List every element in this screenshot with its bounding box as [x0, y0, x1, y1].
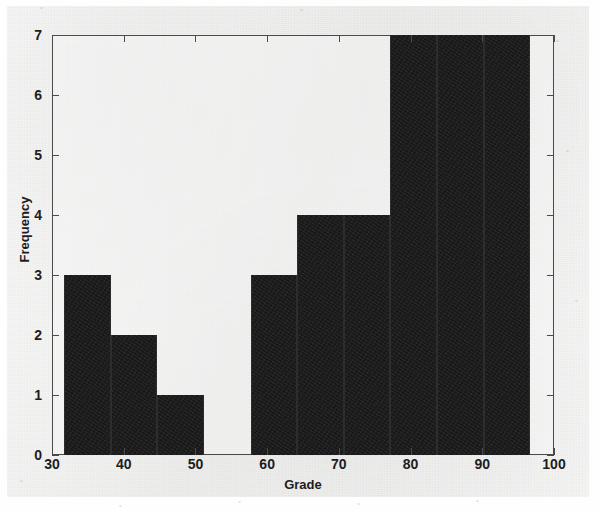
x-axis-tick-label: 70	[316, 457, 362, 472]
histogram-bar	[437, 35, 484, 455]
scan-speckle	[575, 300, 578, 302]
y-axis-tick-label: 7	[8, 28, 42, 42]
x-axis-tick	[482, 448, 483, 455]
histogram-bar	[251, 275, 298, 455]
y-axis-tick-right	[547, 395, 554, 396]
x-axis-tick-top	[52, 35, 53, 42]
x-axis-tick-top	[124, 35, 125, 42]
x-axis-tick	[554, 448, 555, 455]
histogram-bar	[297, 215, 344, 455]
y-axis-tick-label: 2	[8, 328, 42, 342]
scan-speckle	[476, 500, 479, 502]
histogram-chart: 01234567 30405060708090100 Grade Frequen…	[0, 0, 601, 514]
x-axis-title: Grade	[52, 477, 554, 492]
x-axis-tick-top	[267, 35, 268, 42]
y-axis-tick	[52, 275, 59, 276]
x-axis-tick-label: 40	[101, 457, 147, 472]
y-axis-tick	[52, 215, 59, 216]
x-axis-tick-label: 100	[531, 457, 577, 472]
y-axis-tick-right	[547, 95, 554, 96]
y-axis-tick	[52, 335, 59, 336]
x-axis-tick-label: 80	[388, 457, 434, 472]
y-axis-tick	[52, 95, 59, 96]
histogram-bar	[64, 275, 111, 455]
x-axis-tick	[411, 448, 412, 455]
scan-speckle	[556, 40, 559, 42]
x-axis-tick	[195, 448, 196, 455]
y-axis-tick-right	[547, 335, 554, 336]
y-axis-tick-label: 6	[8, 88, 42, 102]
x-axis-tick	[267, 448, 268, 455]
y-axis-tick-right	[547, 155, 554, 156]
scan-speckle	[119, 505, 122, 507]
y-axis-tick	[52, 35, 59, 36]
scan-speckle	[20, 480, 23, 482]
x-axis-tick	[52, 448, 53, 455]
x-axis-tick-top	[554, 35, 555, 42]
y-axis-tick	[52, 395, 59, 396]
histogram-bar	[484, 35, 531, 455]
scan-speckle	[238, 501, 241, 503]
y-axis-title: Frequency	[17, 130, 32, 330]
scan-speckle	[566, 150, 569, 152]
y-axis-tick-right	[547, 275, 554, 276]
y-axis-tick-right	[547, 35, 554, 36]
x-axis-tick-top	[195, 35, 196, 42]
y-axis-tick	[52, 155, 59, 156]
histogram-bar	[344, 215, 391, 455]
x-axis-tick-label: 30	[29, 457, 75, 472]
x-axis-tick-label: 60	[244, 457, 290, 472]
x-axis-tick-label: 50	[172, 457, 218, 472]
histogram-bar	[390, 35, 437, 455]
scan-speckle	[357, 503, 360, 505]
scan-speckle	[40, 7, 43, 9]
x-axis-tick	[124, 448, 125, 455]
x-axis-tick-top	[482, 35, 483, 42]
histogram-bar	[157, 395, 204, 455]
y-axis-tick-right	[547, 215, 554, 216]
x-axis-tick-label: 90	[459, 457, 505, 472]
y-axis-tick-label: 1	[8, 388, 42, 402]
x-axis-tick-top	[339, 35, 340, 42]
histogram-bar	[111, 335, 158, 455]
x-axis-tick	[339, 448, 340, 455]
screenshot-page: 01234567 30405060708090100 Grade Frequen…	[0, 0, 601, 514]
x-axis-tick-top	[411, 35, 412, 42]
histogram-bars	[52, 35, 554, 455]
scan-speckle	[300, 9, 303, 11]
